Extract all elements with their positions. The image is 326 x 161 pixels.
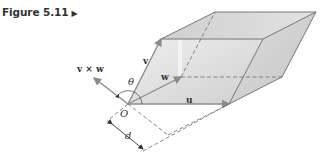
highlight-strip	[178, 39, 182, 77]
label-cross: v × w	[76, 64, 104, 74]
label-w: w	[160, 72, 169, 82]
label-theta: θ	[128, 76, 134, 87]
label-distance: d	[125, 130, 131, 141]
parallelepiped-diagram: v × w v w u θ O d	[0, 0, 326, 161]
label-u: u	[186, 95, 193, 105]
vector-v-cross-w	[94, 78, 128, 104]
label-origin: O	[120, 108, 128, 119]
label-v: v	[142, 56, 149, 66]
